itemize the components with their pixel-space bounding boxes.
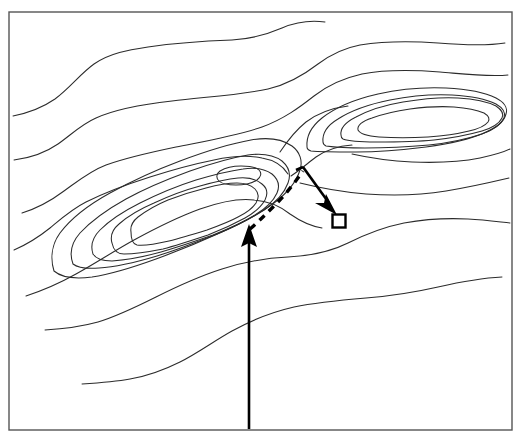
- annotation-layer: [241, 167, 346, 429]
- contour-lower-1: [45, 219, 510, 330]
- contour-map-figure: [0, 0, 520, 441]
- contour-lower-2: [82, 277, 502, 384]
- contour-saddle-lower: [291, 145, 352, 176]
- target-marker-square[interactable]: [333, 215, 346, 228]
- contour-left-ring-5: [131, 183, 258, 245]
- contour-right-ring-4: [358, 107, 489, 138]
- contour-line-upper-3: [22, 70, 508, 213]
- contour-left-ring-2: [71, 154, 289, 268]
- route-junction-tick: [296, 167, 303, 170]
- contour-right-flank-2: [300, 178, 509, 195]
- contour-line-upper-2: [14, 42, 505, 160]
- contour-map-canvas: [0, 0, 520, 441]
- contour-layer: [13, 21, 510, 384]
- contour-left-ring-6: [217, 166, 261, 185]
- descent-arrow-head: [315, 194, 337, 215]
- contour-left-ring-1: [52, 139, 301, 278]
